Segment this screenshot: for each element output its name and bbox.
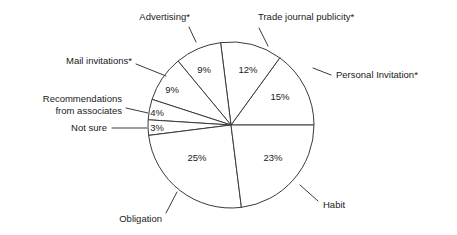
slice-label-recommendations-from-associates-line1: Recommendations <box>43 93 122 104</box>
slice-label-recommendations-from-associates-line2: from associates <box>55 105 122 116</box>
slice-value-personal-invitation: 15% <box>270 91 290 102</box>
slice-label-personal-invitation: Personal Invitation* <box>336 69 418 80</box>
pie-chart-figure: 15%12%9%9%4%3%25%23% Personal Invitation… <box>0 0 457 235</box>
leader-line-habit <box>300 185 318 201</box>
slice-value-mail-invitations: 9% <box>165 84 179 95</box>
slice-label-obligation: Obligation <box>119 213 162 224</box>
slice-value-habit: 23% <box>263 152 283 163</box>
slice-label-not-sure: Not sure <box>71 122 107 133</box>
slice-label-habit: Habit <box>323 199 346 210</box>
slice-value-advertising: 9% <box>197 64 211 75</box>
leader-line-mail-invitations <box>136 64 166 76</box>
pie-slice-habit[interactable] <box>231 125 314 207</box>
slice-value-obligation: 25% <box>187 152 207 163</box>
slice-value-trade-journal-publicity: 12% <box>238 64 258 75</box>
leader-line-obligation <box>166 192 177 213</box>
leader-line-advertising <box>189 27 196 42</box>
leader-line-recommendations-from-associates <box>126 108 148 113</box>
leader-line-trade-journal-publicity <box>259 28 268 46</box>
slice-value-recommendations-from-associates: 4% <box>150 107 164 118</box>
slice-label-recommendations-from-associates: Recommendationsfrom associates <box>43 93 122 116</box>
slice-label-advertising: Advertising* <box>139 11 190 22</box>
leader-line-personal-invitation <box>313 68 331 75</box>
slice-label-mail-invitations: Mail invitations* <box>66 55 132 66</box>
slice-label-trade-journal-publicity: Trade journal publicity* <box>258 11 355 22</box>
pie-slices-group <box>148 42 314 208</box>
pie-chart-canvas: 15%12%9%9%4%3%25%23% Personal Invitation… <box>0 0 457 235</box>
pie-slice-obligation[interactable] <box>149 125 242 208</box>
slice-value-not-sure: 3% <box>150 122 164 133</box>
